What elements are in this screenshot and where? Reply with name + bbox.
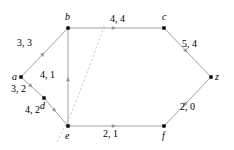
- edge-label-a-d: 3, 2: [11, 84, 26, 94]
- node-label-d: d: [40, 101, 45, 111]
- edge-label-c-z: 5, 4: [182, 39, 197, 49]
- node-e[interactable]: [66, 124, 69, 127]
- node-label-e: e: [65, 131, 69, 141]
- edge-label-a-b: 3, 3: [17, 38, 32, 48]
- dashed-cut-curve: [57, 24, 105, 142]
- flow-network-figure: abcdefz 3, 34, 45, 44, 13, 24, 22, 12, 0: [0, 0, 234, 150]
- node-label-f: f: [162, 131, 165, 141]
- node-z[interactable]: [209, 75, 212, 78]
- edge-label-b-c: 4, 4: [110, 14, 125, 24]
- node-label-z: z: [215, 72, 219, 82]
- node-label-a: a: [12, 72, 17, 82]
- node-f[interactable]: [162, 124, 165, 127]
- node-label-b: b: [65, 12, 70, 22]
- node-a[interactable]: [19, 75, 22, 78]
- edge-label-e-f: 2, 1: [103, 129, 118, 139]
- arrowhead-b-c: [112, 26, 116, 30]
- arrowhead-e-b: [66, 77, 70, 81]
- node-c[interactable]: [162, 26, 165, 29]
- edge-label-d-e: 4, 2: [25, 105, 40, 115]
- node-label-c: c: [162, 12, 166, 22]
- edge-label-f-z: 2, 0: [180, 102, 195, 112]
- node-b[interactable]: [66, 26, 69, 29]
- edge-label-e-b: 4, 1: [40, 70, 55, 80]
- dashed-cut: [57, 24, 105, 142]
